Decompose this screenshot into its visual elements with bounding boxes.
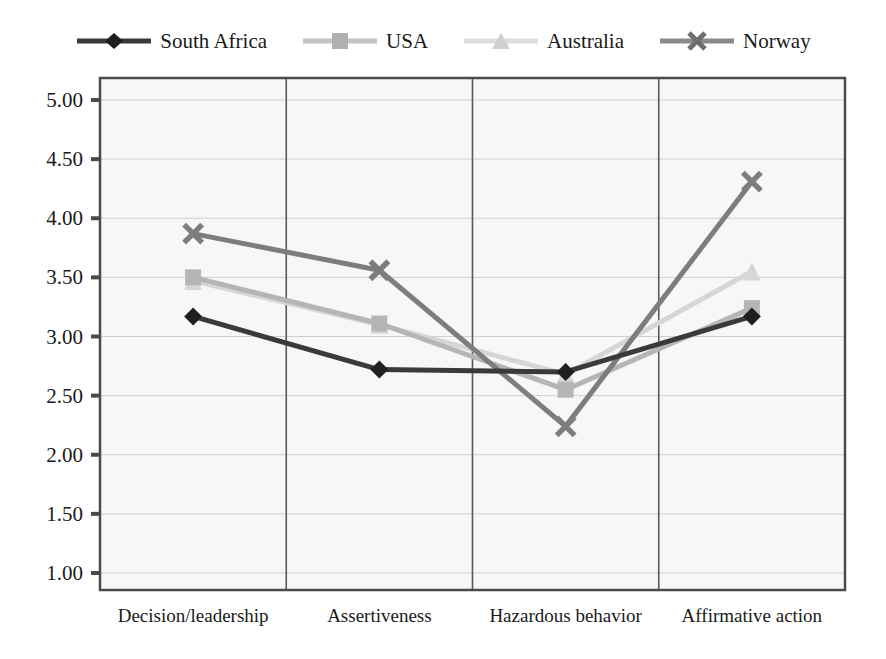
y-axis-tick-label: 1.00 [46,561,83,585]
x-axis-category-label[interactable]: Affirmative action [682,605,823,626]
data-point-marker [558,382,574,398]
x-axis-category-label[interactable]: Assertiveness [327,605,431,626]
plot-area-container: 5.004.504.003.503.002.502.001.501.00 Dec… [0,0,886,659]
plot-svg: 5.004.504.003.503.002.502.001.501.00 Dec… [0,0,886,659]
y-axis-tick-label: 3.50 [46,265,83,289]
y-axis-tick-label: 2.50 [46,384,83,408]
y-axis-tick-label: 2.00 [46,443,83,467]
y-axis-tick-labels: 5.004.504.003.503.002.502.001.501.00 [46,88,83,585]
x-axis-category-labels: Decision/leadershipAssertivenessHazardou… [118,605,823,626]
data-point-marker [185,269,201,285]
data-point-marker [371,315,387,331]
y-axis-tick-label: 4.50 [46,147,83,171]
x-axis-category-label[interactable]: Decision/leadership [118,605,269,626]
y-axis-tick-label: 5.00 [46,88,83,112]
y-axis-tick-label: 3.00 [46,325,83,349]
line-chart: South Africa USA Australia [0,0,886,659]
y-axis-tick-label: 4.00 [46,206,83,230]
y-axis-tick-label: 1.50 [46,502,83,526]
x-axis-category-label[interactable]: Hazardous behavior [489,605,642,626]
